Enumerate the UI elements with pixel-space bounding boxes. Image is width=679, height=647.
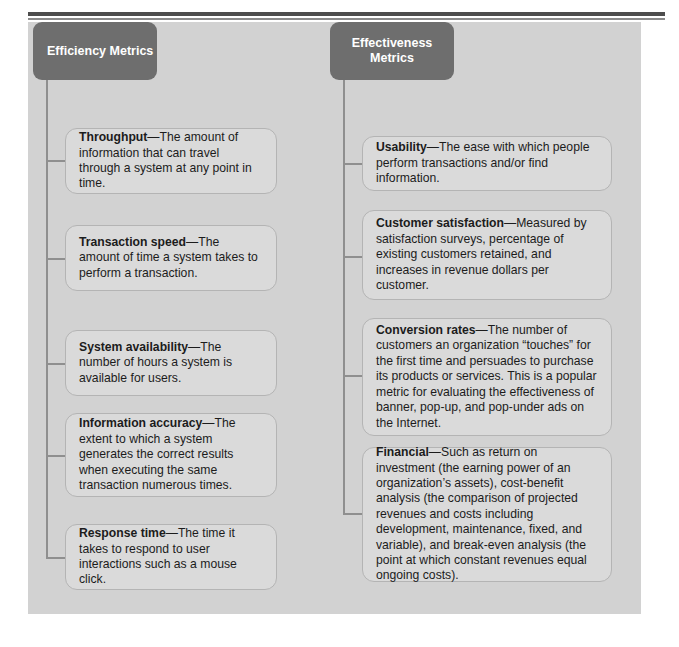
efficiency-header-label: Efficiency Metrics: [47, 44, 153, 59]
metric-dash: —: [166, 526, 178, 540]
metric-dash: —: [429, 445, 441, 459]
metric-box-system-availability: System availability—The number of hours …: [65, 330, 277, 396]
metric-box-information-accuracy: Information accuracy—The extent to which…: [65, 413, 277, 497]
effectiveness-header-label: Effectiveness Metrics: [352, 36, 433, 66]
top-rule: [28, 12, 665, 16]
metric-box-usability: Usability—The ease with which people per…: [362, 136, 612, 191]
metric-text: Customer satisfaction—Measured by satisf…: [363, 216, 611, 293]
metric-box-response-time: Response time—The time it takes to respo…: [65, 524, 277, 590]
metric-text: System availability—The number of hours …: [66, 340, 276, 386]
metric-text: Financial—Such as return on investment (…: [363, 445, 611, 584]
efficiency-stub-4: [46, 455, 65, 457]
metric-text: Conversion rates—The number of customers…: [363, 323, 611, 431]
effectiveness-trunk-line: [343, 80, 345, 513]
metric-text: Response time—The time it takes to respo…: [66, 526, 276, 588]
metric-term: Response time: [79, 526, 166, 540]
metric-term: Information accuracy: [79, 416, 202, 430]
efficiency-stub-1: [46, 160, 65, 162]
metric-term: Financial: [376, 445, 429, 459]
metric-dash: —: [186, 235, 198, 249]
metric-term: System availability: [79, 340, 188, 354]
metric-text: Throughput—The amount of information tha…: [66, 130, 276, 192]
efficiency-stub-3: [46, 363, 65, 365]
metric-term: Conversion rates: [376, 323, 476, 337]
metric-term: Transaction speed: [79, 235, 186, 249]
metric-text: Transaction speed—The amount of time a s…: [66, 235, 276, 281]
efficiency-stub-2: [46, 258, 65, 260]
effectiveness-stub-4: [343, 513, 362, 515]
metric-term: Throughput: [79, 130, 147, 144]
effectiveness-stub-2: [343, 256, 362, 258]
metric-dash: —: [476, 323, 488, 337]
metric-definition: Such as return on investment (the earnin…: [376, 445, 587, 582]
effectiveness-stub-1: [343, 163, 362, 165]
metric-text: Information accuracy—The extent to which…: [66, 416, 276, 493]
metric-dash: —: [427, 140, 439, 154]
efficiency-stub-5: [46, 557, 65, 559]
metric-dash: —: [504, 216, 516, 230]
effectiveness-stub-3: [343, 375, 362, 377]
metric-box-conversion-rates: Conversion rates—The number of customers…: [362, 318, 612, 436]
effectiveness-header-pill: Effectiveness Metrics: [330, 22, 454, 80]
metric-dash: —: [188, 340, 200, 354]
metric-term: Usability: [376, 140, 427, 154]
metric-box-customer-satisfaction: Customer satisfaction—Measured by satisf…: [362, 210, 612, 300]
metric-term: Customer satisfaction: [376, 216, 504, 230]
metric-dash: —: [202, 416, 214, 430]
metric-definition: The number of customers an organization …: [376, 323, 597, 429]
metric-box-throughput: Throughput—The amount of information tha…: [65, 128, 277, 194]
efficiency-trunk-line: [46, 80, 48, 557]
efficiency-header-pill: Efficiency Metrics: [33, 22, 157, 80]
metric-text: Usability—The ease with which people per…: [363, 140, 611, 186]
top-rule-secondary: [28, 18, 665, 20]
metric-box-financial: Financial—Such as return on investment (…: [362, 447, 612, 582]
metric-dash: —: [147, 130, 159, 144]
metric-box-transaction-speed: Transaction speed—The amount of time a s…: [65, 225, 277, 291]
metrics-diagram: Efficiency Metrics Throughput—The amount…: [0, 0, 679, 647]
